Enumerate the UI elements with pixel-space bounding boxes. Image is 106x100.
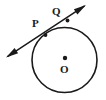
secant-line — [8, 6, 84, 56]
arrowhead-upper-right-icon — [74, 5, 86, 14]
point-label-p: P — [32, 18, 39, 29]
point-label-q: Q — [52, 6, 61, 17]
center-dot — [63, 56, 67, 60]
arrowhead-lower-left-icon — [6, 48, 18, 57]
point-marker-p — [44, 33, 48, 37]
point-marker-q — [66, 19, 70, 23]
center-label-o: O — [60, 64, 69, 75]
geometry-figure: P Q O — [0, 0, 106, 100]
